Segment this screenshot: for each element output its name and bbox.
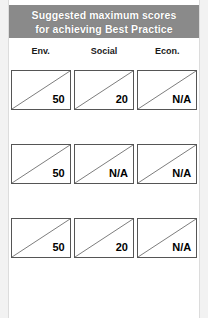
table-sheet: Suggested maximum scores for achieving B… [9, 0, 199, 318]
score-grid: 50 20 N/A [9, 70, 199, 258]
score-cell: 50 [11, 144, 71, 184]
cell-slot: N/A [136, 144, 199, 184]
score-cell: N/A [137, 70, 197, 110]
score-cell: 50 [11, 218, 71, 258]
score-value: N/A [172, 167, 191, 180]
table-title-line-2: for achieving Best Practice [35, 22, 173, 36]
score-value: N/A [172, 241, 191, 254]
cell-slot: N/A [136, 218, 199, 258]
cell-slot: 50 [9, 70, 72, 110]
column-header-econ: Econ. [136, 42, 199, 60]
score-cell: N/A [137, 144, 197, 184]
score-value: 50 [52, 93, 64, 106]
column-header-row: Env. Social Econ. [9, 42, 199, 60]
score-cell: 20 [74, 70, 134, 110]
score-table-page: Suggested maximum scores for achieving B… [0, 0, 208, 318]
score-value: N/A [172, 93, 191, 106]
page-right-margin [199, 0, 208, 318]
cell-slot: N/A [72, 144, 135, 184]
table-title-line-1: Suggested maximum scores [32, 8, 177, 22]
table-row: 50 20 N/A [9, 218, 199, 258]
table-row: 50 N/A N/A [9, 144, 199, 184]
score-cell: 50 [11, 70, 71, 110]
cell-slot: 20 [72, 70, 135, 110]
column-header-social: Social [72, 42, 135, 60]
cell-slot: 20 [72, 218, 135, 258]
cell-slot: 50 [9, 144, 72, 184]
table-title-banner: Suggested maximum scores for achieving B… [9, 5, 199, 38]
score-cell: N/A [137, 218, 197, 258]
score-value: 20 [116, 241, 128, 254]
table-row: 50 20 N/A [9, 70, 199, 110]
cell-slot: 50 [9, 218, 72, 258]
score-value: 50 [52, 167, 64, 180]
column-header-env: Env. [9, 42, 72, 60]
score-value: 20 [116, 93, 128, 106]
score-value: 50 [52, 241, 64, 254]
score-cell: 20 [74, 218, 134, 258]
score-cell: N/A [74, 144, 134, 184]
score-value: N/A [109, 167, 128, 180]
cell-slot: N/A [136, 70, 199, 110]
page-left-margin [0, 0, 9, 318]
